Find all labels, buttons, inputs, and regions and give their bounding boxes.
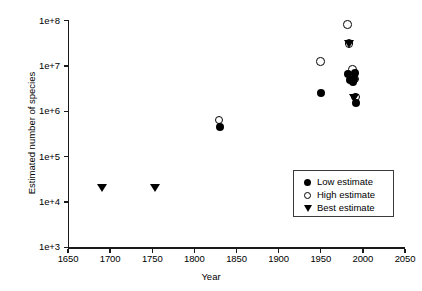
filled-circle-icon <box>302 175 314 188</box>
legend-item-best-estimate: Best estimate <box>302 201 394 214</box>
data-point-best <box>150 184 160 192</box>
x-tick-label: 1900 <box>259 254 299 264</box>
data-point-high <box>343 20 352 29</box>
x-tick-label: 1650 <box>48 254 88 264</box>
y-tick-label: 1e+6 <box>39 106 60 116</box>
legend-item-high-estimate: High estimate <box>302 188 394 201</box>
x-tick <box>109 249 110 253</box>
data-point-low <box>352 99 360 107</box>
y-tick <box>64 156 68 157</box>
x-tick-label: 1700 <box>90 254 130 264</box>
y-tick-label: 1e+4 <box>39 197 60 207</box>
y-tick-label: 1e+5 <box>39 152 60 162</box>
x-tick <box>236 249 237 253</box>
data-point-best <box>97 184 107 192</box>
legend-label: Best estimate <box>317 202 375 213</box>
data-point-low <box>317 89 325 97</box>
x-tick-label: 2050 <box>385 254 422 264</box>
y-tick-label: 1e+3 <box>39 242 60 252</box>
y-tick-label: 1e+8 <box>39 16 60 26</box>
y-tick <box>64 201 68 202</box>
x-tick <box>404 249 405 253</box>
scatter-plot-figure: 1e+31e+41e+51e+61e+71e+8 165017001750180… <box>0 0 422 291</box>
x-tick-label: 1950 <box>301 254 341 264</box>
y-tick <box>64 65 68 66</box>
x-axis-title: Year <box>0 272 422 282</box>
x-tick <box>320 249 321 253</box>
legend-label: Low estimate <box>317 176 373 187</box>
y-axis-title: Estimated number of species <box>27 38 37 228</box>
y-tick <box>64 111 68 112</box>
x-tick-label: 1750 <box>132 254 172 264</box>
x-tick-label: 1800 <box>174 254 214 264</box>
y-tick <box>64 20 68 21</box>
x-tick <box>152 249 153 253</box>
x-tick <box>67 249 68 253</box>
y-tick-label: 1e+7 <box>39 61 60 71</box>
data-point-low <box>216 123 224 131</box>
x-tick <box>362 249 363 253</box>
x-tick-label: 2000 <box>343 254 383 264</box>
filled-triangle-icon <box>302 201 314 214</box>
x-tick <box>194 249 195 253</box>
legend: Low estimate High estimate Best estimate <box>293 170 394 217</box>
data-point-high <box>316 57 325 66</box>
x-tick <box>278 249 279 253</box>
legend-label: High estimate <box>317 189 375 200</box>
data-point-best <box>344 40 354 48</box>
y-axis-line <box>68 20 69 248</box>
open-circle-icon <box>302 188 314 201</box>
legend-item-low-estimate: Low estimate <box>302 175 394 188</box>
x-tick-label: 1850 <box>217 254 257 264</box>
